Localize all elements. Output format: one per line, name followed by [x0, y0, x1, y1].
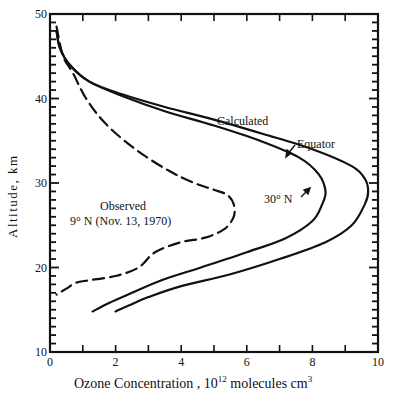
y-axis-label: Altitude, km	[5, 154, 21, 238]
plot-frame	[50, 14, 378, 352]
annotation-arrows	[286, 145, 310, 197]
x-axis-label: Ozone Concentration , 1012 molecules cm3	[74, 374, 312, 392]
x-tick-label: 0	[47, 355, 53, 370]
series-layer	[57, 27, 369, 312]
x-axis-label-unit-exponent: 3	[308, 374, 313, 384]
y-tick-label: 30	[35, 176, 47, 191]
x-axis-ticks	[83, 14, 345, 352]
series-line-0	[57, 31, 369, 312]
series-line-1	[57, 31, 326, 312]
annotation-calculated: Calculated	[217, 114, 268, 129]
y-tick-label: 10	[35, 345, 47, 360]
series-line-2	[57, 27, 235, 295]
y-axis-ticks-right	[369, 22, 378, 343]
x-tick-label: 2	[113, 355, 119, 370]
x-tick-label: 10	[372, 355, 384, 370]
x-tick-label: 6	[244, 355, 250, 370]
y-tick-label: 20	[35, 260, 47, 275]
y-tick-label: 40	[35, 91, 47, 106]
x-axis-label-unit: molecules cm	[227, 376, 308, 391]
y-tick-label: 50	[35, 7, 47, 22]
ozone-profile-chart	[0, 0, 394, 402]
x-axis-label-main: Ozone Concentration , 10	[74, 376, 218, 391]
x-tick-label: 4	[178, 355, 184, 370]
x-tick-label: 8	[309, 355, 315, 370]
annotation-30n: 30° N	[264, 192, 292, 207]
y-axis-ticks-left	[50, 22, 59, 343]
annotation-observed-location: 9° N (Nov. 13, 1970)	[70, 214, 171, 229]
annotation-observed: Observed	[100, 199, 146, 214]
x-axis-label-exponent: 12	[218, 374, 227, 384]
annotation-equator: Equator	[297, 137, 335, 152]
